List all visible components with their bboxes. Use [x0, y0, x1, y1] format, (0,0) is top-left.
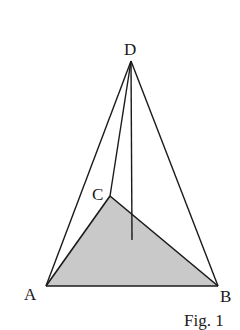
tetrahedron-diagram: D C A B Fig. 1 [0, 0, 240, 330]
label-d: D [124, 40, 136, 59]
edge-dc [110, 61, 131, 196]
label-b: B [220, 287, 231, 306]
label-c: C [92, 185, 103, 204]
figure-caption: Fig. 1 [184, 311, 224, 330]
label-a: A [24, 285, 37, 304]
